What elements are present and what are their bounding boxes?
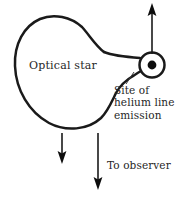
label-to-observer: To observer: [107, 159, 171, 171]
label-site-line-3: emission: [114, 109, 175, 121]
down-arrow-to-observer: [94, 133, 103, 190]
compact-object-core: [148, 61, 157, 70]
accretion-neck-lower: [133, 71, 141, 76]
label-optical-star: Optical star: [29, 60, 97, 73]
down-arrow-left: [58, 133, 67, 164]
up-arrow-jet: [148, 3, 157, 54]
label-site-line-1: Site of: [114, 84, 175, 96]
diagram-canvas: Optical star Site of helium line emissio…: [0, 0, 191, 200]
leader-line-to-neck: [126, 72, 134, 84]
label-site-line-2: helium line: [114, 96, 175, 108]
accretion-neck-upper: [104, 52, 140, 58]
label-site-of-helium-line-emission: Site of helium line emission: [114, 84, 175, 121]
